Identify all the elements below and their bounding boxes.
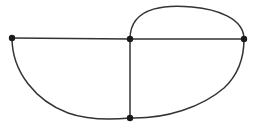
vertex-right: [241, 36, 247, 42]
edge-left-center-straight: [12, 38, 130, 39]
graph-diagram-svg: [0, 0, 254, 126]
edge-bottom-right-arc: [130, 39, 244, 118]
vertex-bottom: [127, 115, 133, 121]
edge-left-bottom-arc: [12, 38, 130, 119]
vertex-center: [127, 36, 133, 42]
figure-canvas: [0, 0, 254, 126]
edge-center-right-arc-top: [130, 6, 244, 39]
vertex-left: [9, 35, 15, 41]
